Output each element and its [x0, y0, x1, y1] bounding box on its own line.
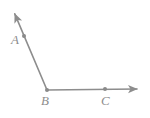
point-c-label: C — [101, 94, 110, 107]
angle-diagram-figure: A B C — [0, 0, 150, 118]
ray-bc-line — [47, 89, 137, 90]
point-c-dot — [103, 87, 107, 91]
point-b-label: B — [41, 94, 49, 107]
point-a-label: A — [11, 33, 19, 46]
point-b-vertex-dot — [45, 88, 49, 92]
point-a-dot — [22, 34, 26, 38]
angle-diagram-canvas — [0, 0, 150, 118]
ray-ba-line — [15, 14, 47, 90]
